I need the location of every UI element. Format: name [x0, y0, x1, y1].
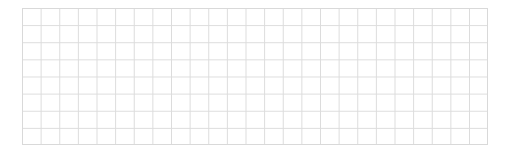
blank-grid [22, 8, 488, 145]
canvas [0, 0, 508, 155]
